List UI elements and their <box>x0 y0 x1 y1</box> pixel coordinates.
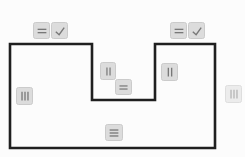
double-vertical-tick-icon <box>102 65 115 78</box>
side-marker-top-right-double-tick[interactable] <box>170 22 187 39</box>
side-marker-top-left-double-tick[interactable] <box>33 22 50 39</box>
side-marker-left-triple-tick[interactable] <box>16 87 33 105</box>
double-horizontal-tick-icon <box>172 24 186 38</box>
triple-horizontal-tick-icon <box>107 126 121 140</box>
side-marker-bottom-triple-tick[interactable] <box>105 124 123 141</box>
check-marker-top-left[interactable] <box>51 22 68 39</box>
double-horizontal-tick-icon <box>35 24 49 38</box>
side-marker-notch-left-double-tick[interactable] <box>100 62 116 80</box>
triple-vertical-tick-icon <box>227 87 241 101</box>
diagram-canvas <box>0 0 245 157</box>
double-vertical-tick-icon <box>163 65 177 79</box>
triple-vertical-tick-icon <box>18 89 32 103</box>
checkmark-icon <box>190 24 204 38</box>
side-marker-notch-bottom-double-tick[interactable] <box>115 79 132 95</box>
side-marker-right-triple-tick[interactable] <box>225 85 242 103</box>
side-marker-notch-right-double-tick[interactable] <box>161 63 178 81</box>
double-horizontal-tick-icon <box>117 81 130 94</box>
check-marker-top-right[interactable] <box>188 22 205 39</box>
checkmark-icon <box>53 24 67 38</box>
